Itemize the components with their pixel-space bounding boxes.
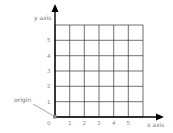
y-tick-label: 5 xyxy=(47,37,51,43)
x-axis-label: x axis xyxy=(147,121,164,128)
grid xyxy=(55,25,143,117)
y-tick-label: 1 xyxy=(47,99,51,105)
origin-tick-label: 0 xyxy=(47,120,51,126)
origin-pointer-line xyxy=(33,104,53,116)
y-axis xyxy=(52,4,59,117)
origin-label: origin xyxy=(14,96,31,104)
y-tick-label: 4 xyxy=(47,53,51,59)
coordinate-grid-diagram: y axis x axis origin 0 1 2 3 4 5 1 2 3 4… xyxy=(0,0,173,133)
y-tick-label: 2 xyxy=(47,83,51,89)
y-tick-label: 3 xyxy=(47,68,51,74)
x-axis-arrow-icon xyxy=(156,114,164,121)
y-axis-label: y axis xyxy=(34,14,51,22)
y-axis-arrow-icon xyxy=(52,4,59,12)
x-tick-label: 5 xyxy=(127,120,131,126)
origin-marker xyxy=(53,115,57,119)
x-tick-label: 2 xyxy=(83,120,87,126)
x-tick-label: 4 xyxy=(112,120,116,126)
x-tick-label: 1 xyxy=(68,120,72,126)
x-tick-label: 3 xyxy=(97,120,101,126)
